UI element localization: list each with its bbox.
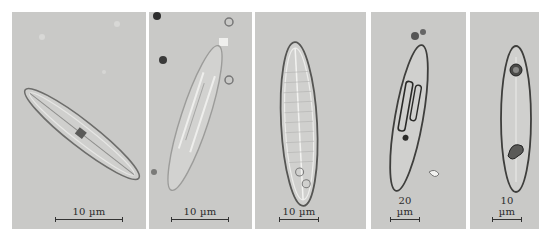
scale-bar-4: 20 µm	[390, 195, 420, 220]
scale-line	[492, 219, 522, 220]
diatom-image-3	[255, 12, 366, 229]
scale-line	[55, 219, 123, 220]
scale-line	[279, 219, 319, 220]
scale-bar-1: 10 µm	[55, 206, 123, 220]
diatom-image-1	[12, 12, 146, 229]
scale-line	[390, 219, 420, 220]
micrograph-panel-3: 10 µm	[255, 12, 366, 229]
scale-label: 10 µm	[171, 206, 229, 217]
scale-bar-5: 10 µm	[492, 195, 522, 220]
micrograph-panel-2: 10 µm	[149, 12, 252, 229]
micrograph-panel-1: 10 µm	[12, 12, 146, 229]
micrograph-panel-4: 20 µm	[371, 12, 466, 229]
scale-label: 10 µm	[279, 206, 319, 217]
diatom-image-2	[149, 12, 252, 229]
scale-label: 20 µm	[390, 195, 420, 217]
micrograph-panel-5: 10 µm	[470, 12, 539, 229]
scale-bar-3: 10 µm	[279, 206, 319, 220]
scale-bar-2: 10 µm	[171, 206, 229, 220]
scale-line	[171, 219, 229, 220]
scale-label: 10 µm	[492, 195, 522, 217]
scale-label: 10 µm	[55, 206, 123, 217]
